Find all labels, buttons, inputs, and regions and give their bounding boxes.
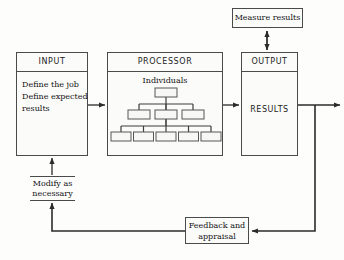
org-node-level3-3 [156, 132, 176, 141]
processor-subtitle-label: Individuals [108, 77, 222, 85]
modify-label-line-1: Modify as [33, 179, 73, 189]
org-node-level3-2 [134, 132, 154, 141]
input-body: Define the job Define expected results [17, 72, 87, 115]
measure-results-label: Measure results [235, 14, 301, 22]
org-node-level3-1 [111, 132, 131, 141]
node-processor: PROCESSOR Individuals [107, 52, 223, 156]
processor-header-label: PROCESSOR [108, 53, 222, 72]
org-node-level1-1 [155, 88, 177, 97]
output-results-label: RESULTS [242, 106, 297, 114]
connector-feedback-to-modify [52, 203, 185, 231]
input-body-line-1: Define the job [22, 79, 82, 91]
org-node-level2-2 [155, 110, 177, 119]
org-node-level2-1 [128, 110, 150, 119]
node-modify-as-necessary: Modify as necessary [30, 176, 75, 201]
org-chart [108, 86, 224, 148]
input-body-line-2: Define expected [22, 91, 82, 103]
input-body-line-3: results [22, 103, 82, 115]
output-header-label: OUTPUT [242, 53, 297, 72]
org-node-level3-5 [201, 132, 221, 141]
input-header-label: INPUT [17, 53, 87, 72]
feedback-label-line-1: Feedback and [189, 220, 246, 231]
node-output: OUTPUT RESULTS [241, 52, 298, 156]
feedback-label-line-2: appraisal [198, 231, 236, 242]
node-feedback-and-appraisal: Feedback and appraisal [185, 217, 249, 244]
node-input: INPUT Define the job Define expected res… [16, 52, 88, 156]
modify-label-line-2: necessary [32, 189, 72, 199]
node-measure-results: Measure results [232, 8, 303, 28]
org-node-level3-4 [179, 132, 199, 141]
org-node-level2-3 [182, 110, 204, 119]
diagram-canvas: Measure results INPUT Define the job Def… [0, 0, 344, 260]
